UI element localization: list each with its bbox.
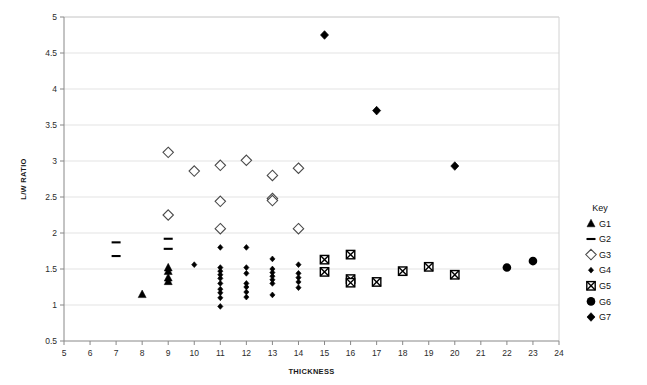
data-point-square-x bbox=[587, 282, 595, 290]
x-tick-label: 7 bbox=[114, 348, 119, 358]
x-axis-ticks-group: 56789101112131415161718192021222324 bbox=[62, 341, 564, 358]
data-point-diamond-filled-small bbox=[244, 270, 249, 276]
axis-frame-group bbox=[64, 17, 559, 341]
data-point-circle-filled bbox=[503, 263, 512, 272]
data-point-diamond-filled bbox=[373, 106, 381, 115]
y-tick-label: 1 bbox=[52, 300, 57, 310]
data-point-diamond-filled-small bbox=[296, 285, 301, 291]
x-tick-label: 8 bbox=[140, 348, 145, 358]
legend-item-label: G3 bbox=[599, 250, 611, 260]
x-tick-label: 22 bbox=[502, 348, 512, 358]
data-point-diamond-open bbox=[267, 170, 277, 180]
y-tick-label: 0.5 bbox=[45, 336, 57, 346]
legend-item-G6[interactable]: G6 bbox=[587, 297, 611, 307]
data-point-diamond-filled-small bbox=[218, 281, 223, 287]
x-tick-label: 17 bbox=[372, 348, 382, 358]
legend-item-G4[interactable]: G4 bbox=[588, 265, 611, 275]
y-tick-label: 5 bbox=[52, 12, 57, 22]
x-tick-label: 12 bbox=[242, 348, 252, 358]
x-tick-label: 6 bbox=[88, 348, 93, 358]
y-tick-label: 3 bbox=[52, 156, 57, 166]
data-point-diamond-open bbox=[293, 223, 303, 233]
data-point-square-x bbox=[425, 263, 433, 271]
series-G2 bbox=[112, 239, 173, 256]
data-point-diamond-filled bbox=[321, 31, 329, 40]
data-point-diamond-filled-small bbox=[244, 245, 249, 251]
data-point-diamond-open bbox=[241, 155, 251, 165]
y-tick-label: 2.5 bbox=[45, 192, 57, 202]
legend-title: Key bbox=[592, 203, 608, 213]
y-tick-label: 2 bbox=[52, 228, 57, 238]
data-points-group bbox=[112, 31, 538, 310]
series-G1 bbox=[138, 263, 172, 297]
x-tick-label: 23 bbox=[528, 348, 538, 358]
x-tick-label: 11 bbox=[216, 348, 225, 358]
data-point-diamond-filled-small bbox=[218, 304, 223, 310]
x-tick-label: 20 bbox=[450, 348, 460, 358]
x-axis-title: THICKNESS bbox=[288, 367, 334, 376]
data-point-diamond-filled-small bbox=[244, 265, 249, 271]
legend-item-G1[interactable]: G1 bbox=[587, 219, 611, 229]
y-axis-title: L/W RATIO bbox=[19, 158, 28, 199]
series-G6 bbox=[503, 257, 538, 272]
legend-item-label: G2 bbox=[599, 234, 611, 244]
data-point-diamond-open bbox=[163, 210, 173, 220]
data-point-diamond-open bbox=[293, 163, 303, 173]
legend-group: KeyG1G2G3G4G5G6G7 bbox=[586, 203, 611, 322]
x-tick-label: 15 bbox=[320, 348, 330, 358]
x-tick-label: 14 bbox=[294, 348, 304, 358]
legend-item-label: G4 bbox=[599, 265, 611, 275]
data-point-diamond-filled-small bbox=[218, 295, 223, 301]
y-tick-label: 4.5 bbox=[45, 48, 57, 58]
y-tick-label: 1.5 bbox=[45, 264, 57, 274]
x-tick-label: 10 bbox=[190, 348, 200, 358]
x-tick-label: 16 bbox=[346, 348, 356, 358]
x-tick-label: 5 bbox=[62, 348, 67, 358]
series-G4 bbox=[192, 245, 301, 310]
data-point-diamond-filled-small bbox=[270, 292, 275, 298]
legend-item-label: G5 bbox=[599, 281, 611, 291]
data-point-circle-filled bbox=[529, 257, 538, 266]
x-tick-label: 21 bbox=[476, 348, 486, 358]
data-point-diamond-filled-small bbox=[192, 262, 197, 268]
legend-item-G2[interactable]: G2 bbox=[587, 234, 612, 244]
data-point-diamond-filled-small bbox=[218, 245, 223, 251]
x-tick-label: 13 bbox=[268, 348, 278, 358]
legend-item-label: G1 bbox=[599, 219, 611, 229]
data-point-diamond-filled-small bbox=[588, 267, 593, 273]
data-point-square-x bbox=[320, 255, 328, 263]
data-point-square-x bbox=[346, 278, 354, 286]
x-tick-label: 9 bbox=[166, 348, 171, 358]
series-G3 bbox=[163, 147, 304, 234]
data-point-diamond-open bbox=[215, 160, 225, 170]
gridlines-group bbox=[64, 17, 559, 305]
data-point-diamond-filled-small bbox=[296, 262, 301, 268]
x-tick-label: 18 bbox=[398, 348, 408, 358]
data-point-square-x bbox=[398, 267, 406, 275]
data-point-square-x bbox=[451, 271, 459, 279]
data-point-diamond-filled-small bbox=[270, 256, 275, 262]
legend-item-G5[interactable]: G5 bbox=[587, 281, 611, 291]
data-point-diamond-open bbox=[586, 249, 596, 259]
x-tick-label: 19 bbox=[424, 348, 434, 358]
series-G7 bbox=[321, 31, 459, 171]
data-point-diamond-open bbox=[215, 223, 225, 233]
data-point-circle-filled bbox=[587, 297, 596, 306]
x-tick-label: 24 bbox=[554, 348, 564, 358]
data-point-triangle-up bbox=[587, 219, 595, 227]
scatter-chart-figure: 56789101112131415161718192021222324 0.51… bbox=[0, 0, 647, 385]
legend-item-G3[interactable]: G3 bbox=[586, 249, 611, 259]
data-point-square-x bbox=[372, 278, 380, 286]
data-point-diamond-open bbox=[215, 196, 225, 206]
data-point-diamond-open bbox=[189, 166, 199, 176]
chart-canvas: 56789101112131415161718192021222324 0.51… bbox=[0, 0, 647, 385]
data-point-square-x bbox=[320, 268, 328, 276]
data-point-diamond-filled-small bbox=[296, 279, 301, 285]
data-point-diamond-filled bbox=[587, 313, 595, 322]
legend-item-label: G7 bbox=[599, 312, 611, 322]
data-point-square-x bbox=[346, 250, 354, 258]
data-point-triangle-up bbox=[138, 290, 146, 298]
data-point-diamond-filled bbox=[451, 162, 459, 171]
legend-item-G7[interactable]: G7 bbox=[587, 312, 611, 322]
y-axis-ticks-group: 0.511.522.533.544.55 bbox=[45, 12, 64, 346]
